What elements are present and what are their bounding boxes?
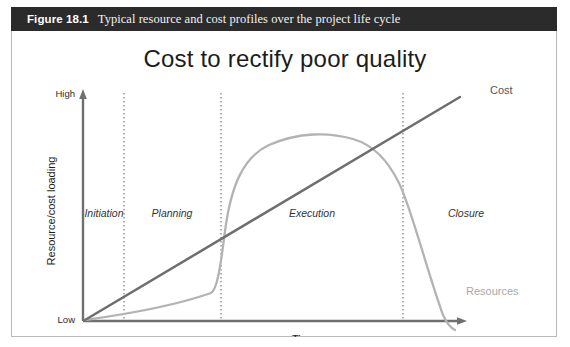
x-axis-arrowhead	[457, 317, 467, 325]
figure-caption-bar: Figure 18.1 Typical resource and cost pr…	[11, 7, 557, 31]
figure-caption-text: Typical resource and cost profiles over …	[98, 12, 400, 27]
chart-plot-area: High Low Resource/cost loading Time Init…	[11, 31, 557, 337]
y-axis-arrowhead	[79, 89, 87, 99]
series-label-cost: Cost	[490, 84, 513, 96]
phase-label-initiation: Initiation	[84, 207, 123, 219]
series-line-cost	[85, 97, 460, 320]
phase-label-closure: Closure	[448, 207, 484, 219]
series-label-resources: Resources	[466, 285, 519, 297]
x-axis-title: Time	[292, 333, 316, 337]
y-axis-tick-low: Low	[58, 314, 76, 325]
series-line-resources	[85, 134, 455, 330]
y-axis-tick-high: High	[55, 88, 75, 99]
figure-number: Figure 18.1	[27, 13, 89, 25]
phase-label-planning: Planning	[152, 207, 193, 219]
y-axis-title: Resource/cost loading	[45, 157, 57, 266]
phase-label-execution: Execution	[289, 207, 335, 219]
figure-container: Figure 18.1 Typical resource and cost pr…	[0, 0, 570, 347]
